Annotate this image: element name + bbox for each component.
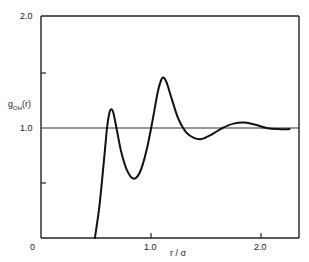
chart-canvas xyxy=(0,0,309,262)
x-tick-label-1: 1.0 xyxy=(144,243,157,252)
x-tick-label-2: 2.0 xyxy=(254,243,267,252)
rdf-curve xyxy=(95,77,290,238)
y-tick-label-2: 2.0 xyxy=(20,12,33,21)
y-tick-label-1: 1.0 xyxy=(20,124,33,133)
x-tick-label-0: 0 xyxy=(30,243,35,252)
axis-ticks xyxy=(41,73,261,238)
x-axis-label: r / σ xyxy=(170,249,186,258)
y-axis-label-arg: (r) xyxy=(22,99,31,109)
y-axis-label-sub: OH xyxy=(13,105,22,111)
y-axis-label: gOH(r) xyxy=(8,99,31,111)
